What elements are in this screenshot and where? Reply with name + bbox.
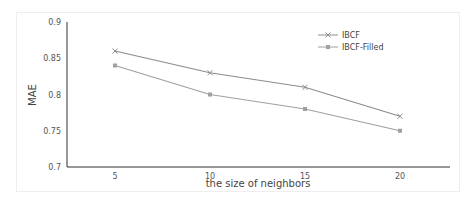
axes (67, 22, 450, 167)
x-tick-label: 20 (395, 172, 405, 181)
data-point (208, 93, 212, 97)
y-tick-label: 0.85 (43, 54, 61, 63)
data-point (398, 129, 402, 133)
legend-marker (326, 45, 330, 49)
y-tick-label: 0.7 (48, 163, 61, 172)
y-tick-label: 0.75 (43, 127, 61, 136)
legend-item: IBCF (318, 31, 360, 40)
x-tick-label: 5 (112, 172, 117, 181)
legend-label: IBCF-Filled (342, 43, 383, 52)
data-point (303, 107, 307, 111)
series-line (115, 66, 400, 131)
series-group (113, 49, 403, 133)
x-axis-label: the size of neighbors (206, 178, 311, 189)
y-tick-label: 0.8 (48, 91, 61, 100)
line-chart: 0.70.750.80.850.9 5101520 MAE the size o… (0, 0, 475, 203)
series-ibcf (113, 49, 403, 119)
legend: IBCFIBCF-Filled (318, 31, 383, 52)
series-line (115, 51, 400, 116)
y-tick-label: 0.9 (48, 18, 61, 27)
y-tick-labels: 0.70.750.80.850.9 (43, 18, 61, 172)
legend-item: IBCF-Filled (318, 43, 383, 52)
series-ibcf-filled (113, 64, 402, 133)
data-point (113, 64, 117, 68)
legend-label: IBCF (342, 31, 360, 40)
y-axis-label: MAE (27, 84, 38, 106)
